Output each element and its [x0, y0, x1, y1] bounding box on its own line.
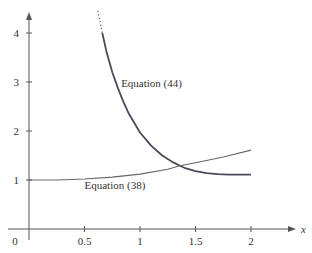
x-axis-label: x [300, 223, 306, 235]
chart: 0.511.5212340x Equation (44)Equation (38… [0, 0, 312, 253]
axes [8, 12, 296, 240]
curve-label: Equation (38) [85, 179, 146, 192]
x-tick-label: 2 [248, 235, 254, 247]
y-tick-label: 2 [14, 125, 20, 137]
y-tick-label: 1 [14, 174, 20, 186]
x-tick-label: 1.5 [189, 235, 203, 247]
y-axis-arrow-icon [26, 12, 32, 20]
x-axis-arrow-icon [288, 226, 296, 232]
x-tick-label: 0.5 [78, 235, 92, 247]
curve-equation-44 [102, 33, 251, 175]
y-tick-label: 3 [14, 76, 20, 88]
curves [29, 11, 251, 180]
curve-dotted-extension [98, 11, 102, 33]
ticks: 0.511.5212340x [12, 27, 306, 247]
x-tick-label: 1 [137, 235, 143, 247]
y-tick-label: 4 [14, 27, 20, 39]
origin-label: 0 [12, 235, 18, 247]
curve-equation-38 [29, 150, 251, 180]
curve-label: Equation (44) [121, 77, 182, 90]
